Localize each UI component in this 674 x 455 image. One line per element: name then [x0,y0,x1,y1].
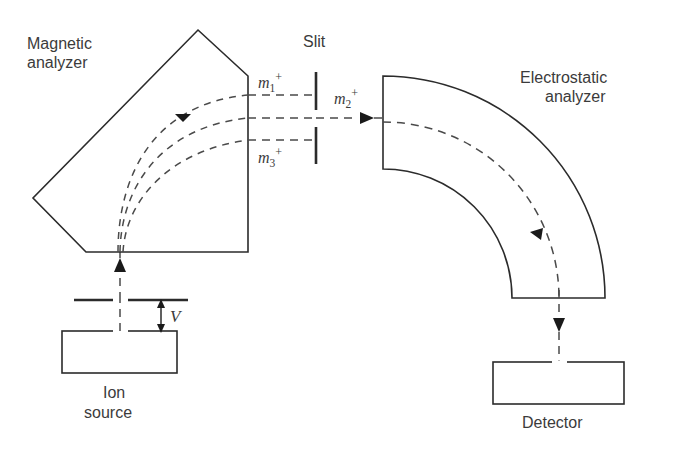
slit-label: Slit [303,33,326,50]
schematic-canvas: V [0,0,674,455]
ion-source-group [62,331,177,373]
magnetic-analyzer-label-line2: analyzer [27,54,88,71]
electrostatic-analyzer-group [383,76,605,298]
beam-source-to-magnet [114,252,126,331]
ion-superscript-m2: + [351,86,358,100]
ion-label-m2: m2+ [334,86,358,110]
electrostatic-analyzer-label-line1: Electrostatic [520,69,607,86]
detector-group [493,362,624,404]
ion-superscript-m1: + [275,70,282,84]
ion-symbol-m3: m [258,149,270,166]
mass-spectrometer-diagram: V [0,0,674,455]
voltage-dimension-group [157,299,165,333]
electrostatic-analyzer-label-line2: analyzer [545,88,606,105]
beams-magnet-to-slit [248,95,314,140]
ion-source-box [62,331,177,373]
beam-esa-to-detector [553,290,565,362]
ion-source-label-line2: source [84,404,132,421]
detector-label: Detector [522,414,583,431]
ion-superscript-m3: + [275,145,282,159]
beam-arrowhead-into-esa-icon [360,112,374,124]
ion-symbol-m1: m [258,74,270,91]
voltage-label: V [170,307,183,326]
detector-box [493,362,624,404]
electrostatic-analyzer-body [383,76,605,298]
beam-slit-to-esa [316,112,384,124]
magnetic-analyzer-label-line1: Magnetic [27,35,92,52]
ion-symbol-m2: m [334,90,346,107]
ion-label-m1: m1+ [258,70,282,94]
ion-label-m3: m3+ [258,145,282,169]
beam-arrowhead-into-detector-icon [553,318,565,332]
beam-arrowhead-into-magnet-icon [114,258,126,272]
ion-source-label-line1: Ion [103,384,125,401]
